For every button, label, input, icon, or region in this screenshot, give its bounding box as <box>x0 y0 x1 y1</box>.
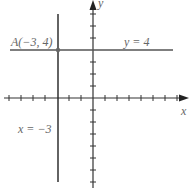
point-a <box>56 48 60 52</box>
y-axis <box>90 0 97 188</box>
y-axis-label: y <box>98 0 103 9</box>
x-axis <box>4 95 189 102</box>
line-y-equals-4-label: y = 4 <box>124 36 149 48</box>
point-a-label: A(−3, 4) <box>11 36 52 48</box>
x-axis-label: x <box>181 105 186 117</box>
coordinate-plane-diagram: y x A(−3, 4) y = 4 x = −3 <box>0 0 189 188</box>
line-x-equals-neg3-label: x = −3 <box>18 123 52 135</box>
graph-canvas <box>0 0 189 188</box>
